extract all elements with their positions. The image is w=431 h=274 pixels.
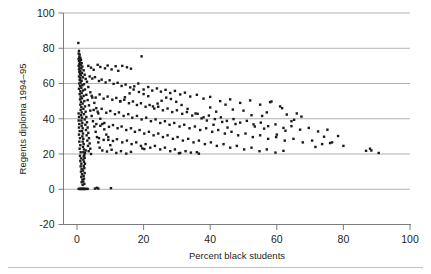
data-point <box>214 118 216 120</box>
data-point <box>115 97 117 99</box>
data-point <box>112 140 114 142</box>
data-point <box>138 129 140 131</box>
data-point <box>182 139 184 141</box>
data-point <box>147 95 149 97</box>
data-point <box>80 181 82 183</box>
y-tick-label--20: -20 <box>39 218 54 230</box>
data-point <box>135 141 137 143</box>
data-point <box>83 172 85 174</box>
data-point <box>81 173 83 175</box>
data-point <box>79 98 81 100</box>
data-point <box>87 145 89 147</box>
data-point <box>78 123 80 125</box>
data-point <box>282 150 284 152</box>
data-point <box>209 106 211 108</box>
data-point <box>166 134 168 136</box>
data-point <box>77 112 79 114</box>
data-point <box>302 141 304 143</box>
data-point <box>98 137 100 139</box>
data-point <box>186 111 188 113</box>
data-point <box>85 116 87 118</box>
data-point <box>92 109 94 111</box>
data-point <box>284 139 286 141</box>
data-point <box>137 82 139 84</box>
data-point <box>80 157 82 159</box>
data-point <box>79 144 81 146</box>
data-point <box>130 67 132 69</box>
data-point <box>80 170 82 172</box>
data-point <box>81 178 83 180</box>
data-point <box>82 158 84 160</box>
data-point <box>147 86 149 88</box>
data-point <box>109 110 111 112</box>
data-point <box>176 136 178 138</box>
data-point <box>107 139 109 141</box>
data-point <box>78 93 80 95</box>
data-point <box>84 105 86 107</box>
data-point <box>198 152 200 154</box>
data-point <box>82 69 84 71</box>
data-point <box>106 64 108 66</box>
y-tick-label-40: 40 <box>43 113 55 125</box>
data-point <box>179 93 181 95</box>
data-point <box>157 106 159 108</box>
data-point <box>108 126 110 128</box>
data-point <box>239 121 241 123</box>
data-point <box>224 103 226 105</box>
data-point <box>323 136 325 138</box>
data-point <box>178 125 180 127</box>
data-point <box>286 113 288 115</box>
data-point <box>266 111 268 113</box>
data-point <box>78 133 80 135</box>
data-point <box>276 133 278 135</box>
data-point <box>82 165 84 167</box>
data-point <box>144 143 146 145</box>
data-point <box>93 125 95 127</box>
data-point <box>82 132 84 134</box>
data-point <box>159 122 161 124</box>
data-point <box>152 134 154 136</box>
data-point <box>85 94 87 96</box>
data-point <box>87 65 89 67</box>
data-point <box>261 115 263 117</box>
data-point <box>311 139 313 141</box>
data-point <box>77 58 79 60</box>
chart-canvas: -20020406080100 020406080100 Regents dip… <box>0 0 431 274</box>
data-point <box>79 165 81 167</box>
data-point <box>78 116 80 118</box>
data-point <box>263 127 265 129</box>
data-point <box>105 112 107 114</box>
data-point <box>189 95 191 97</box>
data-point <box>270 100 272 102</box>
data-point <box>128 92 130 94</box>
data-point <box>296 112 298 114</box>
data-point <box>337 135 339 137</box>
data-point <box>162 109 164 111</box>
data-point <box>86 126 88 128</box>
data-point <box>140 55 142 57</box>
data-point <box>81 84 83 86</box>
data-point <box>120 125 122 127</box>
data-point <box>90 95 92 97</box>
data-point <box>153 107 155 109</box>
data-point <box>284 130 286 132</box>
data-point <box>80 168 82 170</box>
data-point <box>84 149 86 151</box>
data-point <box>84 163 86 165</box>
data-point <box>174 148 176 150</box>
data-point <box>85 134 87 136</box>
data-point <box>148 104 150 106</box>
data-point <box>81 140 83 142</box>
data-point <box>274 151 276 153</box>
data-point <box>83 118 85 120</box>
x-tick-label-100: 100 <box>401 233 419 245</box>
data-point <box>88 142 90 144</box>
data-point <box>243 148 245 150</box>
data-point <box>260 121 262 123</box>
data-point <box>143 132 145 134</box>
data-point <box>95 123 97 125</box>
data-point <box>96 111 98 113</box>
data-point <box>78 148 80 150</box>
data-point <box>100 78 102 80</box>
data-point <box>98 80 100 82</box>
